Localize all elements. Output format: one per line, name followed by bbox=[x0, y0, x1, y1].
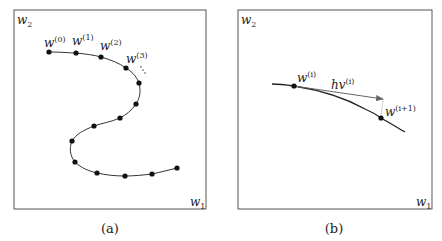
iterate-points bbox=[46, 49, 179, 178]
panel-b-x-axis-label: w1 bbox=[416, 195, 431, 211]
label-w3: w(3) bbox=[126, 51, 148, 66]
label-w2: w(2) bbox=[100, 38, 122, 53]
label-w0: w(0) bbox=[44, 35, 66, 50]
point bbox=[174, 165, 179, 170]
point bbox=[122, 173, 127, 178]
point-w2 bbox=[98, 54, 103, 59]
label-step-hv: hv(i) bbox=[331, 77, 354, 92]
panel-b-y-axis-label: w2 bbox=[241, 13, 256, 29]
figure: w2 w1 w(0) w(1) w(2) w(3) (a bbox=[0, 0, 442, 241]
panel-a-y-axis-label: w2 bbox=[17, 13, 32, 29]
error-dotted-line bbox=[381, 101, 383, 116]
point bbox=[69, 138, 74, 143]
point bbox=[91, 123, 96, 128]
panel-a: w2 w1 w(0) w(1) w(2) w(3) (a bbox=[14, 10, 206, 236]
point-w0 bbox=[46, 49, 51, 54]
ellipsis-dots bbox=[140, 66, 146, 74]
trajectory-curve bbox=[49, 52, 177, 176]
point bbox=[94, 170, 99, 175]
point bbox=[117, 115, 122, 120]
point-wi-plus-1 bbox=[378, 115, 383, 120]
point bbox=[72, 159, 77, 164]
point bbox=[149, 171, 154, 176]
caption-a: (a) bbox=[101, 221, 119, 236]
point-w3 bbox=[123, 65, 128, 70]
point bbox=[133, 101, 138, 106]
caption-b: (b) bbox=[325, 221, 343, 236]
label-w1: w(1) bbox=[72, 33, 94, 48]
panel-a-x-axis-label: w1 bbox=[190, 195, 205, 211]
point-w1 bbox=[73, 50, 78, 55]
point bbox=[136, 80, 141, 85]
label-wi: w(i) bbox=[297, 70, 316, 85]
point-wi bbox=[291, 83, 296, 88]
label-wi-plus-1: w(i+1) bbox=[385, 104, 416, 119]
panel-b: w2 w1 w(i) hv(i) w(i+1) (b) bbox=[238, 10, 432, 236]
